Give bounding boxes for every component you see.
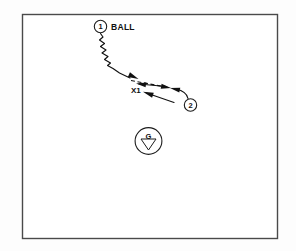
player-2-label: 2 (188, 101, 192, 110)
defender-x1-label: X1 (131, 86, 141, 95)
field-canvas: G1BALL2X1 (0, 0, 296, 251)
ball-annotation-label: BALL (111, 22, 135, 32)
play-diagram: G1BALL2X1 (0, 0, 296, 251)
field-border (23, 15, 278, 239)
player-1-label: 1 (98, 22, 102, 31)
